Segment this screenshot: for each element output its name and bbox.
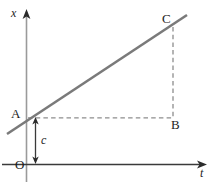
graph-canvas — [0, 0, 217, 183]
point-label-c: C — [162, 12, 171, 25]
intercept-dimension-arrow — [32, 117, 38, 164]
figure-container: x t O A B C c — [0, 0, 217, 183]
t-axis-label: t — [200, 167, 203, 179]
data-line — [7, 15, 187, 134]
origin-label: O — [15, 158, 24, 171]
point-label-b: B — [171, 118, 180, 131]
x-axis-label: x — [11, 7, 16, 19]
intercept-label: c — [41, 134, 46, 146]
point-label-a: A — [11, 107, 20, 120]
t-axis — [2, 160, 207, 168]
